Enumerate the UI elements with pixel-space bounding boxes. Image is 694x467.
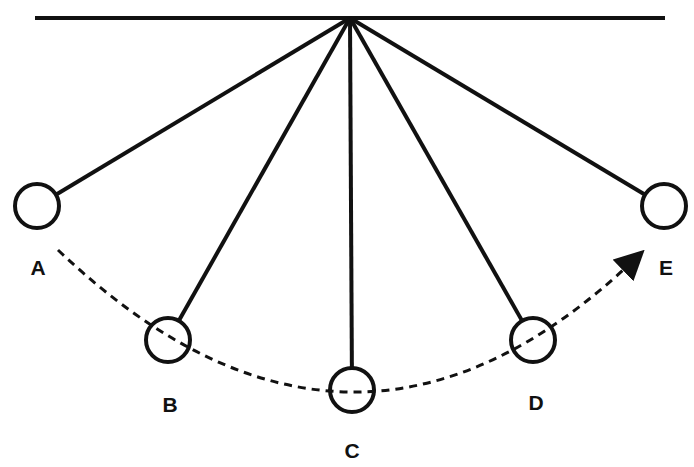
pendulum-string-a [56, 18, 350, 195]
position-label-a: A [30, 256, 45, 279]
swing-arc [58, 250, 636, 392]
pendulum-string-d [350, 18, 522, 321]
position-label-b: B [162, 393, 177, 416]
pendulum-string-e [350, 18, 645, 195]
pendulum-diagram: ABCDE [0, 0, 694, 467]
position-label-d: D [528, 391, 543, 414]
position-label-c: C [344, 439, 359, 462]
pendulum-bob-e [642, 184, 686, 228]
pendulum-bob-a [15, 184, 59, 228]
pendulum-string-c [350, 18, 352, 368]
position-label-e: E [659, 256, 673, 279]
pendulum-bob-b [146, 318, 190, 362]
pendulum-bob-c [330, 368, 374, 412]
pendulum-string-b [179, 18, 350, 321]
